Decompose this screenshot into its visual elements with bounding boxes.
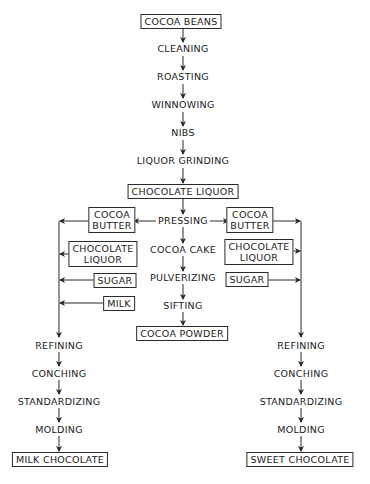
node-winnowing: WINNOWING	[151, 99, 214, 110]
node-pulverizing: PULVERIZING	[150, 272, 216, 283]
node-cocoa-cake: COCOA CAKE	[150, 244, 216, 255]
node-cleaning: CLEANING	[157, 43, 208, 54]
line1: CHOCOLATE	[228, 241, 289, 252]
line2: BUTTER	[230, 220, 269, 231]
node-right-conching: CONCHING	[274, 368, 329, 379]
node-right-cocoa-butter: COCOA BUTTER	[226, 207, 273, 233]
node-liquor-grinding: LIQUOR GRINDING	[137, 155, 230, 166]
node-sweet-chocolate: SWEET CHOCOLATE	[246, 452, 353, 467]
node-chocolate-liquor: CHOCOLATE LIQUOR	[128, 184, 239, 199]
node-right-chocolate-liquor: CHOCOLATE LIQUOR	[224, 239, 293, 265]
node-right-standardizing: STANDARDIZING	[260, 396, 343, 407]
line2: LIQUOR	[72, 254, 133, 265]
line1: COCOA	[92, 209, 131, 220]
node-left-standardizing: STANDARDIZING	[18, 396, 101, 407]
line2: LIQUOR	[228, 252, 289, 263]
node-left-refining: REFINING	[35, 340, 83, 351]
line1: COCOA	[230, 209, 269, 220]
node-left-molding: MOLDING	[35, 424, 83, 435]
node-roasting: ROASTING	[157, 71, 209, 82]
node-right-sugar: SUGAR	[226, 272, 269, 287]
node-cocoa-beans: COCOA BEANS	[140, 14, 221, 29]
node-sifting: SIFTING	[163, 300, 202, 311]
node-right-molding: MOLDING	[277, 424, 325, 435]
node-left-milk: MILK	[103, 296, 135, 311]
flow-diagram: COCOA BEANS CLEANING ROASTING WINNOWING …	[0, 0, 370, 484]
node-left-sugar: SUGAR	[94, 273, 137, 288]
node-right-refining: REFINING	[277, 340, 325, 351]
line1: CHOCOLATE	[72, 243, 133, 254]
node-left-conching: CONCHING	[32, 368, 87, 379]
node-pressing: PRESSING	[158, 215, 208, 226]
node-cocoa-powder: COCOA POWDER	[136, 326, 228, 341]
node-left-cocoa-butter: COCOA BUTTER	[88, 207, 135, 233]
node-left-chocolate-liquor: CHOCOLATE LIQUOR	[68, 241, 137, 267]
node-nibs: NIBS	[171, 127, 195, 138]
line2: BUTTER	[92, 220, 131, 231]
node-milk-chocolate: MILK CHOCOLATE	[12, 452, 108, 467]
